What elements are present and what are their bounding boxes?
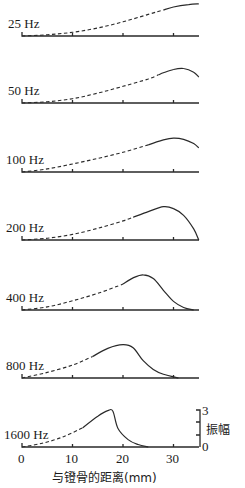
frequency-label: 25 Hz (8, 16, 40, 31)
frequency-panels: 25 Hz50 Hz100 Hz200 Hz400 Hz800 Hz1600 H… (4, 4, 199, 447)
frequency-label: 800 Hz (6, 358, 44, 373)
frequency-label: 1600 Hz (4, 427, 49, 442)
panel-800hz: 800 Hz (6, 345, 199, 378)
panel-100hz: 100 Hz (6, 138, 199, 172)
scale-bottom-label: 0 (202, 439, 209, 454)
amplitude-scale-bar: 3 0 振幅 (196, 403, 230, 454)
panel-50hz: 50 Hz (8, 68, 199, 103)
x-tick-30: 30 (166, 451, 179, 466)
panel-axis (22, 32, 199, 36)
panel-25hz: 25 Hz (8, 4, 199, 36)
measured-curve (163, 4, 198, 10)
panel-1600hz: 1600 Hz (4, 409, 199, 447)
traveling-wave-chart: 25 Hz50 Hz100 Hz200 Hz400 Hz800 Hz1600 H… (0, 0, 245, 488)
panel-axis (22, 99, 199, 103)
measured-curve (148, 138, 199, 148)
scale-bar-line (196, 410, 200, 447)
panel-400hz: 400 Hz (6, 275, 199, 310)
frequency-label: 400 Hz (6, 290, 44, 305)
x-tick-labels: 0 10 20 30 (18, 451, 179, 466)
panel-axis (22, 443, 199, 447)
x-axis-label: 与镫骨的距离(mm) (52, 470, 157, 485)
measured-curve (123, 275, 194, 310)
frequency-label: 200 Hz (6, 220, 44, 235)
measured-curve (158, 68, 199, 77)
measured-curve (133, 207, 199, 240)
panel-200hz: 200 Hz (6, 207, 199, 240)
x-tick-0: 0 (18, 451, 25, 466)
y-axis-label: 振幅 (206, 422, 230, 437)
x-tick-20: 20 (116, 451, 129, 466)
extrapolated-curve (22, 75, 158, 103)
frequency-label: 50 Hz (8, 83, 40, 98)
measured-curve (93, 345, 179, 378)
scale-top-label: 3 (202, 403, 209, 418)
x-tick-10: 10 (65, 451, 78, 466)
panel-axis (22, 374, 199, 378)
measured-curve (83, 409, 149, 447)
frequency-label: 100 Hz (6, 152, 44, 167)
extrapolated-curve (22, 10, 163, 36)
